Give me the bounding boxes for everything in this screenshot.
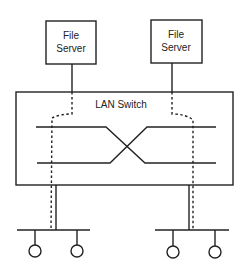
server-left-label-line1: File	[63, 30, 80, 41]
server-right-label-line1: File	[168, 29, 185, 40]
station-left-1	[29, 245, 41, 257]
server-right-label-line2: Server	[161, 42, 191, 53]
station-right-1	[167, 246, 179, 258]
dashed-path-left	[51, 92, 72, 230]
station-right-2	[209, 246, 221, 258]
lan-switch-label: LAN Switch	[95, 99, 147, 110]
server-left-label-line2: Server	[56, 43, 86, 54]
dashed-path-right	[172, 92, 193, 230]
lan-switch-diagram: File Server File Server LAN Switch	[0, 0, 247, 268]
station-left-2	[71, 245, 83, 257]
switch-path-cross-1	[36, 127, 216, 163]
